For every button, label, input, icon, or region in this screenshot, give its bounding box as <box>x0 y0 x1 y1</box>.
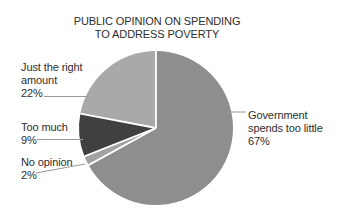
slice-label-text: Just the right <box>21 61 83 74</box>
slice-value-label: 2% <box>21 169 73 182</box>
slice-value-label: 22% <box>21 87 83 100</box>
slice-label-government: Government spends too little 67% <box>248 109 323 148</box>
slice-label-no-opinion: No opinion 2% <box>21 156 73 182</box>
slice-label-text: Too much <box>21 121 68 134</box>
slice-label-text: No opinion <box>21 156 73 169</box>
slice-label-just-right-amount: Just the right amount 22% <box>21 61 83 100</box>
slice-label-text: spends too little <box>248 122 323 135</box>
slice-label-text: amount <box>21 74 83 87</box>
slice-label-text: Government <box>248 109 323 122</box>
slice-value-label: 67% <box>248 135 323 148</box>
pie-chart-figure: PUBLIC OPINION ON SPENDING TO ADDRESS PO… <box>0 0 338 219</box>
slice-label-too-much: Too much 9% <box>21 121 68 147</box>
slice-value-label: 9% <box>21 134 68 147</box>
